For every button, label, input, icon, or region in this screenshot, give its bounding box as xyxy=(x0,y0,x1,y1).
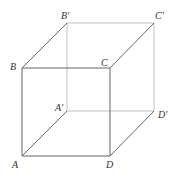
label-a2: A′ xyxy=(54,102,64,113)
edge-a-a2 xyxy=(22,111,67,156)
label-b: B xyxy=(10,61,16,72)
label-b2: B′ xyxy=(61,10,70,21)
edge-d-d2 xyxy=(110,111,154,156)
label-c: C xyxy=(101,57,108,68)
cube-diagram: B′ C′ B C A′ D′ A D xyxy=(0,0,174,177)
edge-c-c2 xyxy=(110,23,154,68)
label-c2: C′ xyxy=(155,10,165,21)
label-d: D xyxy=(105,159,114,170)
edge-b-b2 xyxy=(22,23,67,68)
label-d2: D′ xyxy=(157,109,168,120)
label-a: A xyxy=(11,159,19,170)
